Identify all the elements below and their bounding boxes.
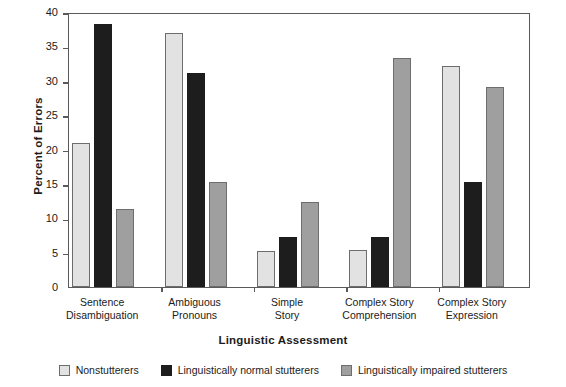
legend-label: Linguistically normal stutterers (178, 364, 319, 376)
legend-swatch-icon (161, 365, 172, 376)
y-tick-mark (63, 116, 69, 118)
legend-item: Linguistically impaired stutterers (341, 364, 507, 376)
y-tick-mark (63, 48, 69, 50)
bar (165, 33, 183, 287)
y-tick-label: 10 (27, 212, 58, 224)
bar (187, 73, 205, 288)
x-category-label-line: Expression (402, 309, 542, 322)
bar (209, 182, 227, 287)
x-category-label-line: Complex Story (402, 296, 542, 309)
bar (393, 58, 411, 287)
y-tick-label: 30 (27, 75, 58, 87)
x-group-separator (346, 287, 348, 292)
legend-swatch-icon (341, 365, 352, 376)
legend-label: Linguistically impaired stutterers (358, 364, 507, 376)
legend-swatch-icon (59, 365, 70, 376)
plot-area: 0510152025303540 (68, 13, 530, 288)
x-group-separator (161, 287, 163, 292)
x-group-separator (254, 287, 256, 292)
legend-item: Linguistically normal stutterers (161, 364, 319, 376)
bar-chart-figure: Percent of Errors 0510152025303540 Sente… (0, 0, 566, 387)
bar (442, 66, 460, 287)
bar (371, 237, 389, 287)
y-tick-mark (63, 151, 69, 153)
bar (279, 237, 297, 287)
y-tick-mark (63, 220, 69, 222)
bar (464, 182, 482, 287)
legend-item: Nonstutterers (59, 364, 139, 376)
y-tick-label: 35 (27, 40, 58, 52)
y-tick-mark (63, 82, 69, 84)
legend-label: Nonstutterers (76, 364, 139, 376)
y-tick-label: 20 (27, 144, 58, 156)
bar (486, 87, 504, 287)
y-tick-mark (63, 185, 69, 187)
bar (116, 209, 134, 287)
y-tick-label: 0 (27, 281, 58, 293)
y-tick-mark (63, 254, 69, 256)
chart-legend: NonstutterersLinguistically normal stutt… (0, 364, 566, 376)
bar (72, 143, 90, 287)
y-tick-label: 15 (27, 178, 58, 190)
x-category-label: Complex StoryExpression (402, 296, 542, 322)
x-group-separator (439, 287, 441, 292)
y-tick-mark (63, 13, 69, 15)
bar (349, 250, 367, 287)
bar (94, 24, 112, 287)
bar (257, 251, 275, 287)
bar (301, 202, 319, 287)
y-tick-label: 25 (27, 109, 58, 121)
y-tick-label: 5 (27, 247, 58, 259)
y-tick-label: 40 (27, 6, 58, 18)
x-axis-title: Linguistic Assessment (0, 334, 566, 346)
